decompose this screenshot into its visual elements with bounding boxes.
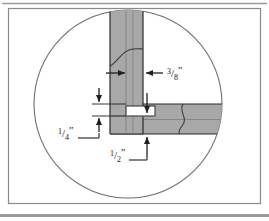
tongue-groove-slot: [126, 106, 155, 116]
figure-page: 3/8″ 1/4″ 1/2″: [0, 0, 269, 221]
bottom-band: [0, 214, 269, 217]
joint-detail-figure: 3/8″ 1/4″ 1/2″: [0, 0, 269, 221]
